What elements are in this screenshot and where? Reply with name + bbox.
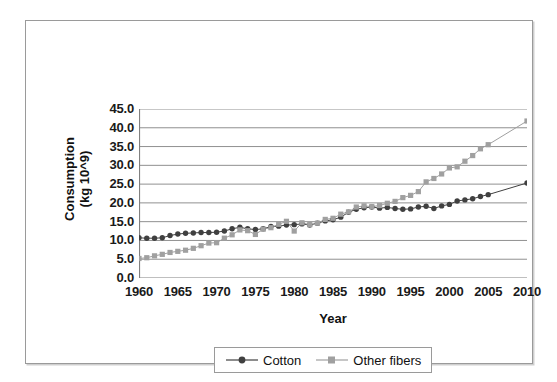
data-point xyxy=(431,176,436,181)
data-point xyxy=(160,235,165,240)
data-point xyxy=(229,226,234,231)
y-axis-tick-labels: 0.05.010.015.020.025.030.035.040.045.0 xyxy=(86,101,134,286)
data-point xyxy=(454,198,459,203)
data-point xyxy=(183,248,188,253)
data-point xyxy=(152,235,157,240)
data-point xyxy=(261,227,266,232)
data-point xyxy=(175,249,180,254)
data-point xyxy=(423,204,428,209)
data-point xyxy=(214,240,219,245)
data-point xyxy=(183,231,188,236)
data-point xyxy=(385,201,390,206)
data-point xyxy=(315,221,320,226)
data-point xyxy=(144,235,149,240)
y-tick-label: 35.0 xyxy=(86,140,134,154)
legend-label: Cotton xyxy=(263,353,301,368)
y-tick-label: 0.0 xyxy=(86,271,134,285)
x-tick-label: 2010 xyxy=(504,284,550,299)
chart-frame: 0.05.010.015.020.025.030.035.040.045.0 1… xyxy=(25,20,533,364)
y-axis-title-line-2: (kg 10^9) xyxy=(77,99,92,259)
data-point xyxy=(524,118,527,123)
data-point xyxy=(462,197,467,202)
legend-entry-other-fibers[interactable]: Other fibers xyxy=(315,353,421,368)
data-point xyxy=(237,227,242,232)
data-point xyxy=(416,204,421,209)
y-tick-label: 45.0 xyxy=(86,102,134,116)
y-tick-label: 25.0 xyxy=(86,177,134,191)
x-axis-title: Year xyxy=(139,311,527,326)
data-point xyxy=(524,180,527,185)
data-point xyxy=(292,222,297,227)
plot-svg xyxy=(139,109,527,278)
data-point xyxy=(323,217,328,222)
y-axis-title-line-1: Consumption xyxy=(62,99,77,259)
data-point xyxy=(486,192,491,197)
data-point xyxy=(222,228,227,233)
data-point xyxy=(206,230,211,235)
data-point xyxy=(478,194,483,199)
x-axis-tick-labels: 1960196519701975198019851990199520002005… xyxy=(139,284,527,302)
data-point xyxy=(191,230,196,235)
data-point xyxy=(431,206,436,211)
data-point xyxy=(455,164,460,169)
y-tick-label: 15.0 xyxy=(86,215,134,229)
data-point xyxy=(160,252,165,257)
data-point xyxy=(198,243,203,248)
data-point xyxy=(167,233,172,238)
data-point xyxy=(400,195,405,200)
data-point xyxy=(338,212,343,217)
data-point xyxy=(139,256,142,261)
data-point xyxy=(462,159,467,164)
data-point xyxy=(416,189,421,194)
data-point xyxy=(253,232,258,237)
data-point xyxy=(447,165,452,170)
series-markers xyxy=(139,118,527,261)
y-axis-title: Consumption (kg 10^9) xyxy=(62,99,92,259)
legend-circle-marker-icon xyxy=(225,354,259,366)
gridlines xyxy=(139,109,527,259)
data-point xyxy=(447,202,452,207)
data-point xyxy=(369,204,374,209)
chart-figure: 0.05.010.015.020.025.030.035.040.045.0 1… xyxy=(0,0,557,382)
data-point xyxy=(230,232,235,237)
data-point xyxy=(191,246,196,251)
data-point xyxy=(175,231,180,236)
data-point xyxy=(392,206,397,211)
data-point xyxy=(354,204,359,209)
data-point xyxy=(330,216,335,221)
legend-entry-cotton[interactable]: Cotton xyxy=(225,353,301,368)
data-point xyxy=(392,199,397,204)
data-point xyxy=(470,196,475,201)
data-point xyxy=(284,219,289,224)
y-tick-label: 5.0 xyxy=(86,252,134,266)
series-line-other-fibers xyxy=(139,121,527,258)
data-point xyxy=(299,220,304,225)
data-point xyxy=(470,153,475,158)
data-point xyxy=(139,235,142,240)
y-tick-label: 40.0 xyxy=(86,121,134,135)
data-point xyxy=(478,146,483,151)
data-point xyxy=(198,230,203,235)
data-point xyxy=(408,206,413,211)
data-point xyxy=(377,203,382,208)
data-point xyxy=(486,142,491,147)
data-point xyxy=(408,193,413,198)
data-point xyxy=(206,240,211,245)
data-point xyxy=(439,203,444,208)
data-point xyxy=(361,203,366,208)
y-tick-label: 20.0 xyxy=(86,196,134,210)
data-point xyxy=(222,236,227,241)
data-point xyxy=(167,250,172,255)
data-point xyxy=(214,229,219,234)
data-point xyxy=(152,253,157,258)
data-point xyxy=(276,222,281,227)
legend-square-marker-icon xyxy=(315,354,349,366)
data-point xyxy=(424,179,429,184)
data-point xyxy=(307,222,312,227)
data-point xyxy=(245,228,250,233)
y-tick-label: 30.0 xyxy=(86,158,134,172)
y-tick-label: 10.0 xyxy=(86,233,134,247)
data-point xyxy=(144,255,149,260)
data-point xyxy=(292,228,297,233)
series-line-cotton xyxy=(139,183,527,238)
